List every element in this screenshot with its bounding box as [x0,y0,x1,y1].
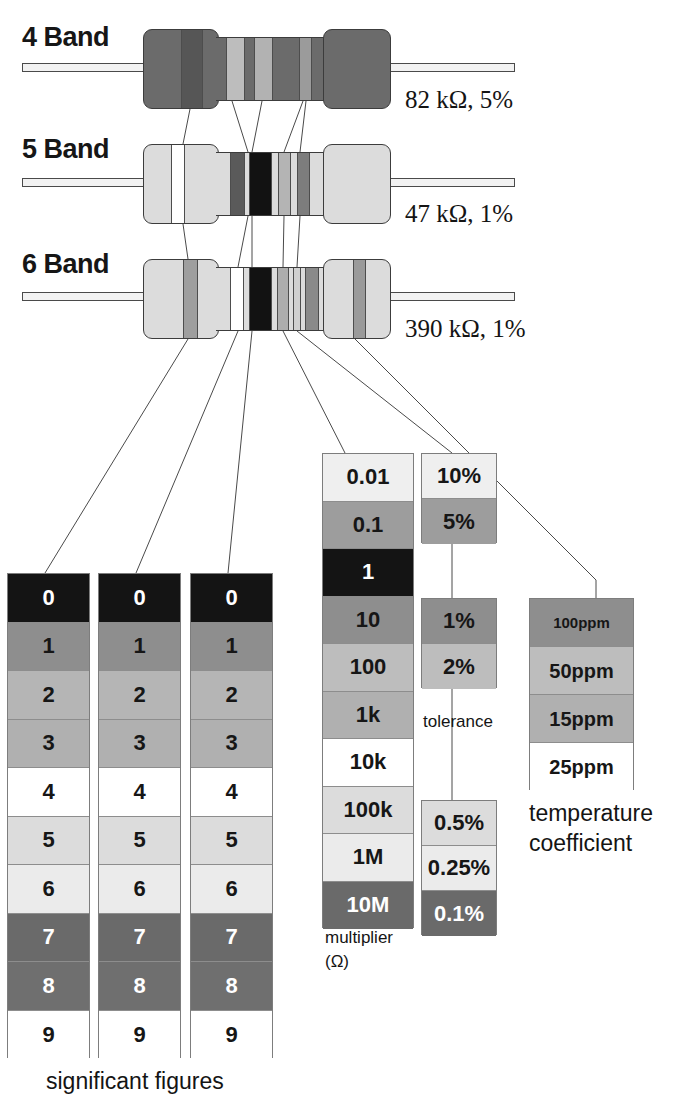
significant-figures-col2-row-3[interactable]: 3 [99,720,180,769]
significant-figures-col2-row-0[interactable]: 0 [99,574,180,623]
tolerance-group-middle: 1%2% [421,598,497,688]
significant-figures-col1-row-5[interactable]: 5 [8,817,89,866]
temperature-coefficient-caption-line1: temperature [529,800,653,827]
tolerance-g3-row-0[interactable]: 0.5% [422,801,496,846]
significant-figures-col2-row-8[interactable]: 8 [99,962,180,1011]
significant-figures-col1-row-6[interactable]: 6 [8,865,89,914]
significant-figures-col2-row-1[interactable]: 1 [99,623,180,672]
significant-figures-column-3: 0123456789 [190,573,273,1058]
leader-5b-5 [297,216,300,267]
significant-figures-col2-row-7[interactable]: 7 [99,914,180,963]
multiplier-row-0[interactable]: 0.01 [323,454,413,502]
significant-figures-column-1: 0123456789 [7,573,90,1058]
significant-figures-col1-row-0[interactable]: 0 [8,574,89,623]
significant-figures-col1-row-7[interactable]: 7 [8,914,89,963]
significant-figures-col1-row-8[interactable]: 8 [8,962,89,1011]
multiplier-row-2[interactable]: 1 [323,549,413,597]
significant-figures-col2-row-9[interactable]: 9 [99,1011,180,1060]
temperature-coefficient-row-2[interactable]: 15ppm [530,695,633,743]
significant-figures-column-2: 0123456789 [98,573,181,1058]
significant-figures-col3-row-7[interactable]: 7 [191,914,272,963]
tolerance-g2-row-1[interactable]: 2% [422,644,496,689]
multiplier-row-1[interactable]: 0.1 [323,502,413,550]
temperature-coefficient-column: 100ppm50ppm15ppm25ppm [529,598,634,790]
significant-figures-col1-row-4[interactable]: 4 [8,768,89,817]
leader-4b-2 [232,101,248,152]
temperature-coefficient-row-0[interactable]: 100ppm [530,599,633,647]
tolerance-g1-row-0[interactable]: 10% [422,454,496,499]
temperature-coefficient-row-0-line-1: ppm [578,615,610,631]
tolerance-caption: tolerance [423,712,493,732]
significant-figures-col3-row-1[interactable]: 1 [191,623,272,672]
significant-figures-caption: significant figures [46,1068,224,1095]
temperature-coefficient-row-1[interactable]: 50ppm [530,647,633,695]
leader-5b-2 [238,216,248,267]
leader-4b-1 [183,109,190,144]
multiplier-column: 0.010.11101001k10k100k1M10M [322,453,414,928]
tolerance-g3-row-1[interactable]: 0.25% [422,846,496,891]
leader-4b-4 [284,101,303,152]
multiplier-caption-line1: multiplier [325,928,393,948]
multiplier-row-5[interactable]: 1k [323,692,413,740]
significant-figures-col3-row-8[interactable]: 8 [191,962,272,1011]
multiplier-row-3[interactable]: 10 [323,597,413,645]
tolerance-g2-row-0[interactable]: 1% [422,599,496,644]
significant-figures-col2-row-4[interactable]: 4 [99,768,180,817]
multiplier-row-8[interactable]: 1M [323,834,413,882]
significant-figures-col3-row-4[interactable]: 4 [191,768,272,817]
leader-to-sig-1 [45,339,188,573]
significant-figures-col1-row-3[interactable]: 3 [8,720,89,769]
leader-to-sig-3 [228,331,252,573]
significant-figures-col3-row-5[interactable]: 5 [191,817,272,866]
tolerance-g1-row-1[interactable]: 5% [422,499,496,544]
multiplier-row-6[interactable]: 10k [323,739,413,787]
tolerance-group-lower: 0.5%0.25%0.1% [421,800,497,935]
tolerance-g3-row-2[interactable]: 0.1% [422,891,496,936]
significant-figures-col3-row-2[interactable]: 2 [191,671,272,720]
significant-figures-col1-row-1[interactable]: 1 [8,623,89,672]
significant-figures-col2-row-2[interactable]: 2 [99,671,180,720]
leader-to-mult [283,331,345,453]
significant-figures-col3-row-9[interactable]: 9 [191,1011,272,1060]
resistor-color-code-diagram: 4 Band 82 kΩ, 5% 5 Band 47 [0,0,675,1109]
significant-figures-col3-row-3[interactable]: 3 [191,720,272,769]
leader-to-sig-2 [136,331,238,573]
significant-figures-col3-row-0[interactable]: 0 [191,574,272,623]
significant-figures-col3-row-6[interactable]: 6 [191,865,272,914]
temperature-coefficient-row-3[interactable]: 25ppm [530,743,633,791]
significant-figures-col2-row-5[interactable]: 5 [99,817,180,866]
tolerance-group-upper: 10%5% [421,453,497,543]
significant-figures-col1-row-9[interactable]: 9 [8,1011,89,1060]
multiplier-row-9[interactable]: 10M [323,882,413,930]
leader-5b-1 [183,224,188,259]
leader-to-tol [297,331,452,453]
temperature-coefficient-caption-line2: coefficient [529,830,632,857]
significant-figures-col1-row-2[interactable]: 2 [8,671,89,720]
multiplier-row-4[interactable]: 100 [323,644,413,692]
leader-4b-3 [252,101,262,152]
leader-5b-4 [283,216,284,267]
significant-figures-col2-row-6[interactable]: 6 [99,865,180,914]
multiplier-row-7[interactable]: 100k [323,787,413,835]
temperature-coefficient-row-0-line-0: 100 [553,615,578,631]
leader-4b-5 [300,101,306,152]
multiplier-caption-line2: (Ω) [325,952,349,972]
